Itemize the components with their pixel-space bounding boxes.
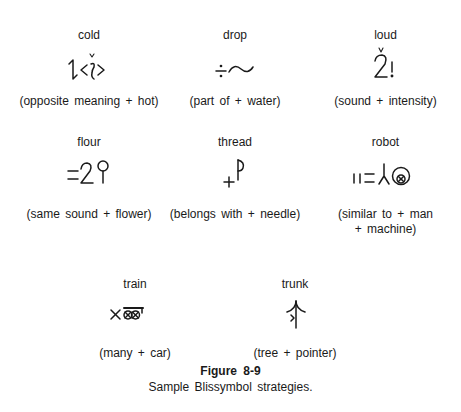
trunk-blissymbol-icon	[220, 295, 370, 329]
example-trunk: trunk (tree + pointer)	[220, 255, 370, 365]
thread-blissymbol-icon	[160, 154, 310, 188]
word-label: train	[60, 277, 210, 291]
word-label: thread	[160, 135, 310, 149]
example-train: train (many + car)	[60, 255, 210, 365]
word-label: robot	[310, 135, 461, 149]
drop-blissymbol-icon	[160, 48, 310, 82]
cold-blissymbol-icon	[14, 48, 164, 82]
gloss-text: (sound + intensity)	[290, 94, 461, 109]
example-robot: robot (similar to + man + machine)	[310, 125, 461, 255]
example-loud: loud (sound + intensity)	[310, 0, 461, 120]
gloss-text: (tree + pointer)	[200, 346, 390, 361]
example-drop: drop (part of + water)	[160, 0, 310, 120]
word-label: flour	[14, 135, 164, 149]
example-flour: flour (same sound + flower)	[14, 125, 164, 245]
figure-number: Figure 8-9	[0, 364, 461, 378]
example-thread: thread (belongs with + needle)	[160, 125, 310, 245]
word-label: cold	[14, 28, 164, 42]
figure-caption: Sample Blissymbol strategies.	[0, 380, 461, 394]
gloss-text-line2: + machine)	[290, 222, 461, 237]
word-label: loud	[310, 28, 461, 42]
loud-blissymbol-icon	[310, 44, 461, 78]
flour-blissymbol-icon	[14, 154, 164, 188]
gloss-text-line1: (similar to + man	[290, 207, 461, 222]
word-label: drop	[160, 28, 310, 42]
word-label: trunk	[220, 277, 370, 291]
robot-blissymbol-icon	[310, 154, 461, 188]
train-blissymbol-icon	[60, 297, 210, 331]
